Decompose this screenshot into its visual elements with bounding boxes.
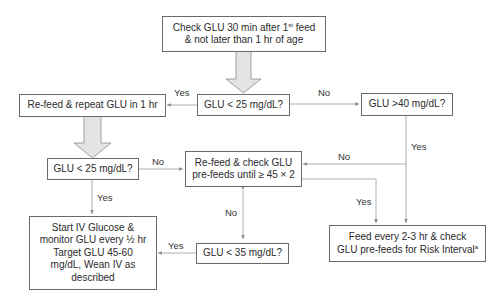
label-first-no: No (318, 87, 330, 98)
node-glu-gt40: GLU >40 mg/dL? (361, 93, 453, 116)
node-glu-lt25-first: GLU < 25 mg/dL? (197, 94, 290, 116)
label-refeed-check-yes: Yes (356, 196, 372, 207)
node-glu-lt35: GLU < 35 mg/dL? (196, 243, 289, 264)
big-arrow-refeed (74, 116, 111, 158)
label-first-yes: Yes (174, 87, 190, 98)
label-lt35-yes: Yes (168, 240, 184, 251)
node-refeed-repeat: Re-feed & repeat GLU in 1 hr (19, 94, 166, 117)
node-refeed-check: Re-feed & check GLU pre-feeds until ≥ 45… (185, 151, 302, 187)
node-start-line1: Check GLU 30 min after 1st feed (173, 22, 316, 35)
node-start-iv: Start IV Glucose & monitor GLU every ½ h… (29, 216, 157, 290)
label-gt40-no: No (338, 151, 350, 162)
label-second-yes: Yes (97, 192, 113, 203)
node-start: Check GLU 30 min after 1st feed & not la… (162, 16, 326, 52)
node-glu-lt25-second: GLU < 25 mg/dL? (47, 158, 139, 180)
label-second-no: No (152, 156, 164, 167)
node-feed-every: Feed every 2-3 hr & check GLU pre-feeds … (329, 225, 486, 262)
node-start-line2: & not later than 1 hr of age (185, 34, 303, 47)
label-gt40-yes: Yes (411, 141, 427, 152)
big-arrow-start (226, 51, 261, 93)
label-lt35-no: No (225, 207, 237, 218)
